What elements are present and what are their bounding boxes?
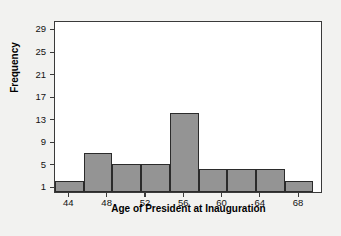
y-tick-label: 13 xyxy=(24,114,46,125)
x-axis-title: Age of President at Inauguration xyxy=(54,203,323,214)
y-tick-label: 21 xyxy=(24,69,46,80)
y-tick-label: 17 xyxy=(24,91,46,102)
y-tick-label: 1 xyxy=(24,181,46,192)
histogram-bar xyxy=(256,169,285,192)
histogram-bar xyxy=(170,113,199,192)
histogram-chart: Frequency 1591317212529 44485256606468 A… xyxy=(0,0,341,236)
histogram-bar xyxy=(112,164,141,192)
histogram-bar xyxy=(285,181,314,192)
histogram-bar xyxy=(84,153,113,192)
histogram-bar xyxy=(55,181,84,192)
y-tick-label: 29 xyxy=(24,23,46,34)
y-tick-label: 5 xyxy=(24,159,46,170)
y-axis-title: Frequency xyxy=(9,8,20,128)
y-tick-label: 9 xyxy=(24,136,46,147)
bars-container xyxy=(55,22,321,192)
histogram-bar xyxy=(227,169,256,192)
histogram-bar xyxy=(199,169,228,192)
plot-area xyxy=(54,21,322,193)
y-tick-label: 25 xyxy=(24,46,46,57)
histogram-bar xyxy=(141,164,170,192)
